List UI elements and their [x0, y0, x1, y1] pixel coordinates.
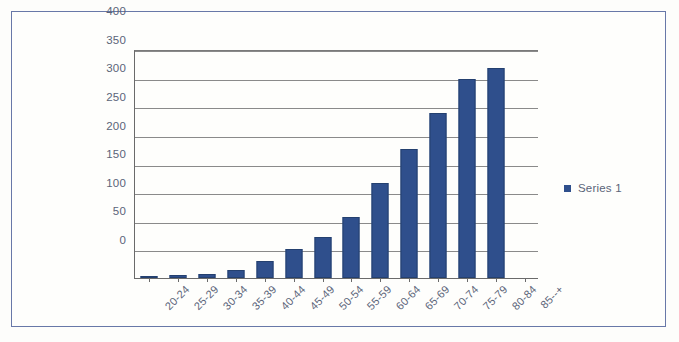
bar-slot — [510, 51, 539, 278]
y-tick-label: 50 — [113, 206, 126, 218]
x-tick-label: 55-59 — [365, 283, 394, 312]
bar-slot — [193, 51, 222, 278]
y-tick-label: 400 — [106, 6, 126, 18]
y-tick-label: 350 — [106, 35, 126, 47]
bar[interactable] — [372, 183, 389, 278]
x-tick-mark — [236, 278, 237, 282]
bar-slot — [337, 51, 366, 278]
y-tick-label: 150 — [106, 149, 126, 161]
x-tick-mark — [438, 278, 439, 282]
y-tick-label: 200 — [106, 121, 126, 133]
x-tick-label: 70-74 — [452, 283, 481, 312]
x-tick-label: 40-44 — [278, 283, 307, 312]
chart-canvas: 400350300250200150100500 20-2425-2930-34… — [0, 0, 679, 342]
x-tick-mark — [323, 278, 324, 282]
x-tick-mark — [525, 278, 526, 282]
y-tick-label: 0 — [119, 235, 126, 247]
y-tick-label: 250 — [106, 92, 126, 104]
x-tick-label: 50-54 — [336, 283, 365, 312]
bar-slot — [452, 51, 481, 278]
x-tick-label: 75-79 — [480, 283, 509, 312]
x-tick-mark — [409, 278, 410, 282]
x-tick-mark — [294, 278, 295, 282]
bar[interactable] — [401, 149, 418, 278]
bar-slot — [395, 51, 424, 278]
bar[interactable] — [429, 113, 446, 278]
bar-slot — [135, 51, 164, 278]
bar[interactable] — [256, 261, 273, 278]
bar-slot — [250, 51, 279, 278]
x-tick-label: 30-34 — [221, 283, 250, 312]
y-tick-label: 300 — [106, 63, 126, 75]
x-tick-mark — [351, 278, 352, 282]
x-tick-label: 25-29 — [192, 283, 221, 312]
chart-frame-border: 400350300250200150100500 20-2425-2930-34… — [11, 11, 666, 327]
x-tick-label: 80-84 — [509, 283, 538, 312]
x-tick-label: 85--+ — [537, 283, 565, 311]
x-tick-mark — [149, 278, 150, 282]
bar-slot — [424, 51, 453, 278]
x-tick-mark — [380, 278, 381, 282]
bar-slot — [366, 51, 395, 278]
x-tick-mark — [496, 278, 497, 282]
bar[interactable] — [487, 68, 504, 278]
bar[interactable] — [314, 237, 331, 278]
bar-slot — [222, 51, 251, 278]
bar-slot — [308, 51, 337, 278]
bar-slot — [279, 51, 308, 278]
chart-legend: Series 1 — [564, 182, 622, 194]
bar-slot — [481, 51, 510, 278]
x-tick-label: 45-49 — [307, 283, 336, 312]
x-tick-mark — [178, 278, 179, 282]
legend-square-marker-icon — [564, 185, 571, 192]
y-axis: 400350300250200150100500 — [84, 12, 126, 326]
bars-layer — [135, 51, 538, 278]
x-tick-mark — [265, 278, 266, 282]
bar-slot — [164, 51, 193, 278]
bar[interactable] — [285, 249, 302, 278]
bar[interactable] — [458, 79, 475, 278]
x-tick-label: 60-64 — [394, 283, 423, 312]
y-tick-label: 100 — [106, 178, 126, 190]
x-tick-label: 35-39 — [250, 283, 279, 312]
x-tick-mark — [467, 278, 468, 282]
x-axis: 20-2425-2930-3435-3940-4445-4950-5455-59… — [134, 283, 538, 342]
legend-label: Series 1 — [578, 182, 622, 194]
bar[interactable] — [227, 270, 244, 278]
x-tick-label: 20-24 — [163, 283, 192, 312]
x-tick-mark — [207, 278, 208, 282]
plot-area — [134, 50, 538, 279]
bar[interactable] — [343, 217, 360, 278]
x-tick-label: 65-69 — [423, 283, 452, 312]
